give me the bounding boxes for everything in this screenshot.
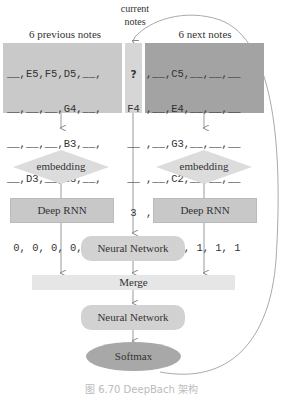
grid-row: ,__,G3,__,__,__ xyxy=(146,139,264,151)
grid-row: __,E5,F5,D5,__, xyxy=(7,69,122,81)
grid-row: ,__,C5,__,__,__ xyxy=(146,69,264,81)
embedding-right-label: embedding xyxy=(156,160,252,172)
deep-rnn-left-node: Deep RNN xyxy=(10,198,114,223)
neural-network-top-node: Neural Network xyxy=(81,236,185,261)
softmax-node: Softmax xyxy=(86,342,181,371)
previous-notes-label: 6 previous notes xyxy=(22,28,108,40)
neural-network-bottom-node: Neural Network xyxy=(81,305,185,330)
current-notes-label-line2: notes xyxy=(110,16,160,27)
current-note-unknown: ? xyxy=(125,69,142,81)
grid-row: ,__,E4,__,__,__ xyxy=(146,104,264,116)
merge-node: Merge xyxy=(32,275,235,290)
deep-rnn-right-node: Deep RNN xyxy=(153,198,257,223)
embedding-left-node: embedding xyxy=(13,150,109,184)
embedding-right-node: embedding xyxy=(156,150,252,184)
grid-cell: __ xyxy=(125,139,142,151)
previous-notes-panel: __,E5,F5,D5,__, __,__,__,G4,__, __,__,__… xyxy=(3,43,122,113)
grid-row: __,__,__,G4,__, xyxy=(7,104,122,116)
grid-cell: F4 xyxy=(125,104,142,116)
next-notes-label: 6 next notes xyxy=(170,28,240,40)
grid-cell: 3 xyxy=(125,208,142,220)
current-notes-label-line1: current xyxy=(110,3,160,14)
figure-caption: 图 6.70 DeepBach 架构 xyxy=(0,381,283,396)
next-notes-panel: ,__,C5,__,__,__ ,__,E4,__,__,__ ,__,G3,_… xyxy=(145,43,264,113)
grid-cell: __ xyxy=(125,174,142,186)
grid-row: __,__,__,B3,__, xyxy=(7,139,122,151)
current-notes-panel: ? F4 __ __ 3 0 xyxy=(125,43,142,113)
embedding-left-label: embedding xyxy=(13,160,109,172)
